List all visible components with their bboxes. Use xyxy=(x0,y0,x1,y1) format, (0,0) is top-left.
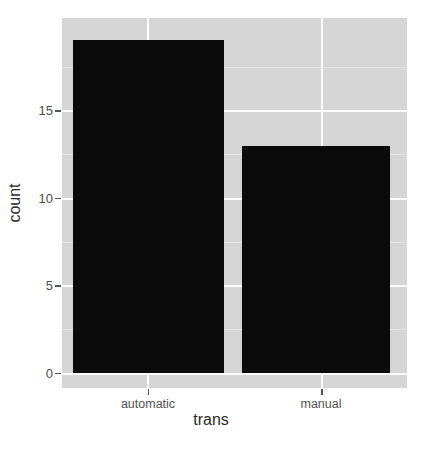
y-tick-mark-5 xyxy=(55,285,61,287)
y-tick-label-5: 5 xyxy=(5,279,53,292)
chart-panel xyxy=(62,18,407,388)
bar-chart: count 15 10 5 0 automatic manual trans xyxy=(0,0,422,453)
bar-automatic xyxy=(73,40,224,373)
x-tick-label-manual: manual xyxy=(261,398,381,411)
x-tick-mark-automatic xyxy=(148,389,150,395)
bar-manual xyxy=(242,146,390,374)
y-tick-label-0: 0 xyxy=(5,367,53,380)
x-tick-mark-manual xyxy=(321,389,323,395)
y-tick-mark-0 xyxy=(55,373,61,375)
x-axis-title: trans xyxy=(0,412,422,428)
y-tick-mark-10 xyxy=(55,198,61,200)
x-tick-label-automatic: automatic xyxy=(88,398,208,411)
y-tick-label-15: 15 xyxy=(5,104,53,117)
y-tick-mark-15 xyxy=(55,110,61,112)
y-tick-label-10: 10 xyxy=(5,192,53,205)
